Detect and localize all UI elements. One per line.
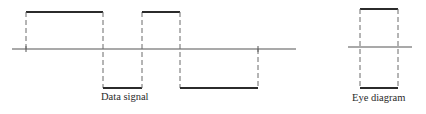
data-signal xyxy=(12,12,296,88)
data-signal-caption: Data signal xyxy=(101,91,149,102)
eye-diagram xyxy=(348,9,412,88)
eye-diagram-caption: Eye diagram xyxy=(352,92,405,103)
